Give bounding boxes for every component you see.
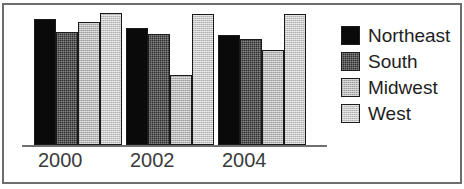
swatch-south-icon bbox=[341, 52, 360, 71]
bar-south-2002[interactable] bbox=[148, 34, 170, 145]
bar-midwest-2000[interactable] bbox=[78, 22, 100, 145]
bar-west-2000[interactable] bbox=[100, 13, 122, 145]
legend-label-west: West bbox=[368, 104, 411, 123]
swatch-midwest-icon bbox=[341, 78, 360, 97]
bar-midwest-2002[interactable] bbox=[170, 75, 192, 145]
bar-group-2004 bbox=[218, 6, 306, 145]
legend-label-midwest: Midwest bbox=[368, 78, 438, 97]
figure-border-bottom bbox=[2, 182, 462, 184]
bar-northeast-2004[interactable] bbox=[218, 35, 240, 145]
bar-group-2000 bbox=[34, 6, 122, 145]
bar-south-2000[interactable] bbox=[56, 32, 78, 145]
bar-northeast-2000[interactable] bbox=[34, 19, 56, 145]
legend-item-south[interactable]: South bbox=[341, 48, 459, 74]
swatch-west-icon bbox=[341, 104, 360, 123]
bar-west-2002[interactable] bbox=[192, 14, 214, 145]
bar-west-2004[interactable] bbox=[284, 14, 306, 145]
bar-northeast-2002[interactable] bbox=[126, 28, 148, 145]
figure-border-left bbox=[2, 3, 4, 184]
legend-item-west[interactable]: West bbox=[341, 100, 459, 126]
legend-item-northeast[interactable]: Northeast bbox=[341, 22, 459, 48]
x-axis-line bbox=[22, 145, 327, 147]
figure-border-right bbox=[460, 3, 462, 184]
figure-border-top bbox=[2, 3, 462, 5]
x-tick-label-2000: 2000 bbox=[38, 149, 83, 172]
bar-midwest-2004[interactable] bbox=[262, 50, 284, 145]
bar-chart-figure: 200020022004 NortheastSouthMidwestWest bbox=[0, 0, 464, 189]
x-tick-label-2002: 2002 bbox=[130, 149, 175, 172]
legend-label-south: South bbox=[368, 52, 418, 71]
chart-legend: NortheastSouthMidwestWest bbox=[341, 22, 459, 126]
swatch-northeast-icon bbox=[341, 26, 360, 45]
bar-south-2004[interactable] bbox=[240, 39, 262, 145]
legend-label-northeast: Northeast bbox=[368, 26, 450, 45]
bar-group-2002 bbox=[126, 6, 214, 145]
plot-area: 200020022004 bbox=[8, 6, 333, 178]
x-tick-label-2004: 2004 bbox=[222, 149, 267, 172]
legend-item-midwest[interactable]: Midwest bbox=[341, 74, 459, 100]
